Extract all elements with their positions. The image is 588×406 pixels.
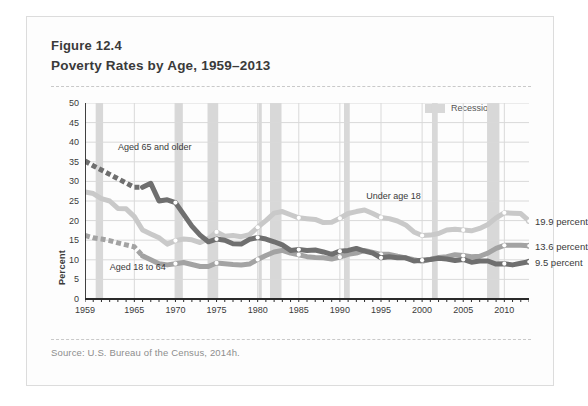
y-axis-tick-label: 45 xyxy=(53,118,79,128)
data-point-marker xyxy=(256,225,260,229)
x-axis-tick-label: 1990 xyxy=(330,305,350,315)
x-axis-tick-label: 1970 xyxy=(165,305,185,315)
x-axis-tick-label: 1975 xyxy=(207,305,227,315)
data-point-marker xyxy=(502,211,506,215)
data-point-marker xyxy=(461,228,465,232)
data-point-marker xyxy=(420,258,424,262)
source-note: Source: U.S. Bureau of the Census, 2014h… xyxy=(51,347,240,358)
data-point-marker xyxy=(256,257,260,261)
figure-card: Figure 12.4 Poverty Rates by Age, 1959–2… xyxy=(26,16,554,386)
data-point-marker xyxy=(173,262,177,266)
series-annotation-aged65plus: Aged 65 and older xyxy=(118,142,192,152)
data-point-marker xyxy=(297,216,301,220)
x-axis-tick-label: 1995 xyxy=(371,305,391,315)
y-axis-tick-label: 15 xyxy=(53,235,79,245)
data-point-marker xyxy=(297,248,301,252)
y-axis-tick-label: 40 xyxy=(53,137,79,147)
series-annotation-aged18to64: Aged 18 to 64 xyxy=(110,262,166,272)
series-line xyxy=(85,192,529,244)
x-axis-tick-label: 1959 xyxy=(75,305,95,315)
y-axis-tick-label: 10 xyxy=(53,255,79,265)
x-axis-tick-label: 1965 xyxy=(124,305,144,315)
y-axis-tick-label: 5 xyxy=(53,274,79,284)
data-point-marker xyxy=(420,233,424,237)
y-axis-tick-label: 35 xyxy=(53,157,79,167)
chart-svg xyxy=(85,103,529,303)
data-point-marker xyxy=(379,256,383,260)
series-line xyxy=(143,183,529,265)
data-point-marker xyxy=(338,249,342,253)
data-point-marker xyxy=(338,216,342,220)
data-point-marker xyxy=(502,262,506,266)
data-point-marker xyxy=(214,237,218,241)
figure-title-block: Figure 12.4 Poverty Rates by Age, 1959–2… xyxy=(51,37,271,75)
end-value-label-under18: 19.9 percent xyxy=(535,215,588,226)
y-axis-tick-label: 20 xyxy=(53,216,79,226)
title-divider xyxy=(51,86,531,87)
data-point-marker xyxy=(379,215,383,219)
data-point-marker xyxy=(338,255,342,259)
x-axis-ticks: 1959196519701975198019851990199520002005… xyxy=(85,305,529,319)
series-end-marker xyxy=(527,259,529,264)
data-point-marker xyxy=(502,243,506,247)
x-axis-tick-label: 2005 xyxy=(453,305,473,315)
y-axis-tick-label: 0 xyxy=(53,294,79,304)
y-axis-tick-label: 30 xyxy=(53,176,79,186)
x-axis-tick-label: 1980 xyxy=(248,305,268,315)
source-divider xyxy=(51,339,531,340)
series-annotation-under18: Under age 18 xyxy=(366,191,421,201)
data-point-marker xyxy=(461,257,465,261)
data-point-marker xyxy=(214,230,218,234)
data-point-marker xyxy=(256,235,260,239)
series-end-marker xyxy=(527,219,529,224)
end-value-label-aged18to64: 13.6 percent xyxy=(535,240,588,251)
series-end-marker xyxy=(527,243,529,248)
y-axis-tick-label: 50 xyxy=(53,98,79,108)
y-axis-tick-label: 25 xyxy=(53,196,79,206)
data-point-marker xyxy=(214,261,218,265)
end-value-label-aged65plus: 9.5 percent xyxy=(535,256,583,267)
data-point-marker xyxy=(173,200,177,204)
figure-number: Figure 12.4 xyxy=(51,37,271,55)
y-axis-ticks: 05101520253035404550 xyxy=(51,103,79,299)
data-point-marker xyxy=(297,253,301,257)
x-axis-tick-label: 2010 xyxy=(494,305,514,315)
x-axis-tick-label: 2000 xyxy=(412,305,432,315)
chart-plot-area: Percent 05101520253035404550 19591965197… xyxy=(51,103,531,335)
page-title: Poverty Rates by Age, 1959–2013 xyxy=(51,56,271,75)
x-axis-tick-label: 1985 xyxy=(289,305,309,315)
data-point-marker xyxy=(173,238,177,242)
